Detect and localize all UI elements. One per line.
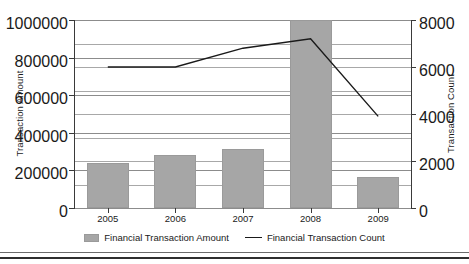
legend-item-amount: Financial Transaction Amount bbox=[84, 232, 229, 243]
tickmark-left bbox=[69, 170, 74, 171]
y-axis-left-title: Transaction Amount bbox=[14, 54, 25, 174]
y-tick-right: 8000 bbox=[419, 20, 465, 21]
y-tick-left-label: 800000 bbox=[15, 53, 68, 71]
tickmark-right bbox=[411, 161, 416, 162]
tickmark-x bbox=[378, 208, 379, 213]
legend-item-count: Financial Transaction Count bbox=[245, 232, 385, 243]
tickmark-left bbox=[69, 133, 74, 134]
line-series bbox=[74, 20, 412, 209]
y-tick-right-label: 6000 bbox=[419, 62, 455, 80]
x-tick-label-2006: 2006 bbox=[153, 213, 197, 224]
y-tick-left-label: 600000 bbox=[15, 90, 68, 108]
y-tick-left-label: 1000000 bbox=[6, 15, 68, 33]
x-tick-label-2009: 2009 bbox=[356, 213, 400, 224]
y-tick-left: 800000 bbox=[0, 58, 68, 59]
x-tick-label-2005: 2005 bbox=[86, 213, 130, 224]
y-tick-right-label: 2000 bbox=[419, 156, 455, 174]
y-tick-right: 0 bbox=[419, 208, 465, 209]
line-series-path bbox=[108, 39, 378, 117]
y-tick-left-label: 200000 bbox=[15, 165, 68, 183]
tickmark-x bbox=[108, 208, 109, 213]
chart-legend: Financial Transaction Amount Financial T… bbox=[0, 232, 469, 243]
tickmark-right bbox=[411, 20, 416, 21]
y-tick-right: 2000 bbox=[419, 161, 465, 162]
tickmark-right bbox=[411, 114, 416, 115]
y-tick-left: 200000 bbox=[0, 170, 68, 171]
tickmark-left bbox=[69, 208, 74, 209]
legend-label-amount: Financial Transaction Amount bbox=[104, 232, 229, 243]
line-swatch-icon bbox=[245, 237, 262, 238]
y-tick-left: 0 bbox=[0, 208, 68, 209]
bar-swatch-icon bbox=[84, 234, 99, 242]
y-tick-left-label: 400000 bbox=[15, 128, 68, 146]
y-tick-right: 4000 bbox=[419, 114, 465, 115]
plot-area bbox=[74, 20, 412, 208]
y-tick-left: 600000 bbox=[0, 95, 68, 96]
x-tick-label-2008: 2008 bbox=[289, 213, 333, 224]
tickmark-left bbox=[69, 95, 74, 96]
y-tick-left-label: 0 bbox=[59, 203, 68, 221]
axis-line-left bbox=[74, 20, 75, 209]
tickmark-left bbox=[69, 58, 74, 59]
tickmark-x bbox=[311, 208, 312, 213]
tickmark-left bbox=[69, 20, 74, 21]
legend-label-count: Financial Transaction Count bbox=[267, 232, 385, 243]
y-tick-right-label: 4000 bbox=[419, 109, 455, 127]
tickmark-x bbox=[175, 208, 176, 213]
chart-figure: Transaction Amount Transaction Count 020… bbox=[0, 0, 469, 264]
y-tick-right: 6000 bbox=[419, 67, 465, 68]
y-tick-right-label: 8000 bbox=[419, 15, 455, 33]
y-tick-right-label: 0 bbox=[419, 203, 428, 221]
tickmark-x bbox=[243, 208, 244, 213]
tickmark-right bbox=[411, 208, 416, 209]
tickmark-right bbox=[411, 67, 416, 68]
footer-rule-thin bbox=[0, 252, 469, 253]
y-tick-left: 400000 bbox=[0, 133, 68, 134]
x-tick-label-2007: 2007 bbox=[221, 213, 265, 224]
footer-rule-thick bbox=[0, 257, 469, 259]
y-tick-left: 1000000 bbox=[0, 20, 68, 21]
